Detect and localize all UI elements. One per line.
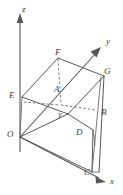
dashed-f-to-a <box>58 59 61 104</box>
dashed-a-to-b <box>61 105 96 110</box>
geometry-figure: z y x O E F A G B D C y <box>0 0 123 195</box>
segment-length-label-y: y <box>58 110 62 119</box>
vertex-label-F: F <box>55 48 61 57</box>
axis-label-z: z <box>22 5 26 14</box>
vertex-label-A: A <box>54 85 60 94</box>
vertex-label-C: C <box>84 168 90 177</box>
vertex-label-D: D <box>76 128 83 137</box>
axis-label-x: x <box>110 177 114 186</box>
vertex-label-O: O <box>7 130 14 139</box>
right-face-edges <box>92 76 104 172</box>
axis-label-y: y <box>106 37 110 46</box>
vertex-label-E: E <box>9 91 15 100</box>
geometry-canvas <box>0 0 123 195</box>
vertex-label-B: B <box>101 108 107 117</box>
vertex-label-G: G <box>104 67 111 76</box>
